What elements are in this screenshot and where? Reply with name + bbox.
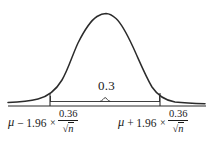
interval-brace-tip: [101, 98, 110, 102]
bell-curve-graphic: [0, 0, 213, 147]
bell-curve-path: [8, 14, 205, 104]
normal-curve-figure: 0.3 μ − 1.96 × 0.36 √ n μ + 1.96 × 0: [0, 0, 213, 147]
